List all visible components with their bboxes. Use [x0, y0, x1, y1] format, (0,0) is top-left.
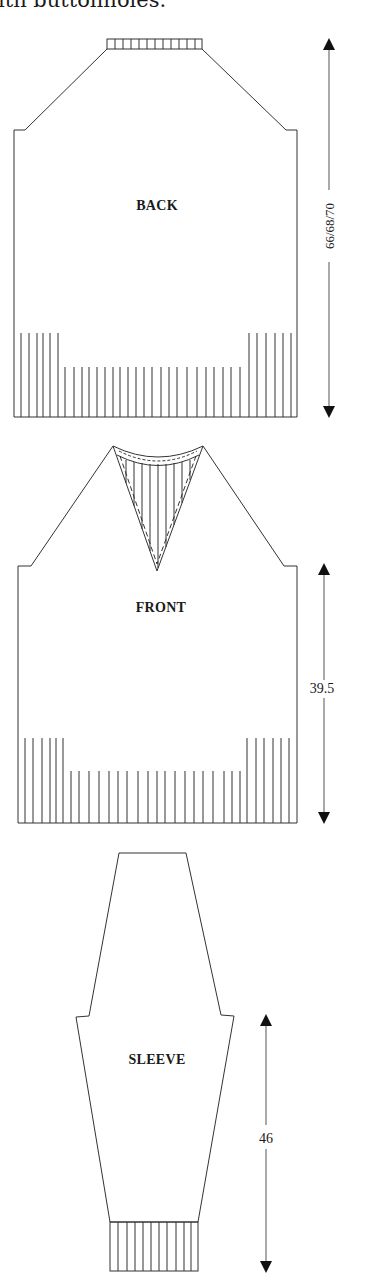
arrow-down-icon: [260, 1261, 272, 1273]
back-piece: BACK 66/68/70: [14, 38, 337, 418]
sleeve-length-label: 46: [259, 1131, 273, 1146]
back-label: BACK: [136, 198, 178, 213]
front-neckband: [113, 446, 203, 457]
arrow-down-icon: [323, 406, 335, 418]
front-label: FRONT: [136, 600, 187, 615]
sleeve-piece: SLEEVE 46: [76, 853, 273, 1273]
front-placket-ribs: [126, 460, 190, 568]
front-length-label: 39.5: [310, 681, 335, 696]
back-outline: [14, 49, 297, 417]
pattern-schematic: BACK 66/68/70: [0, 0, 367, 1283]
front-piece: FRONT 39.5: [18, 446, 340, 824]
sleeve-length-arrow: 46: [259, 1014, 273, 1273]
front-ribbing: [25, 738, 289, 823]
arrow-down-icon: [318, 812, 330, 824]
arrow-up-icon: [318, 563, 330, 575]
sleeve-cuff-ribs: [118, 1222, 191, 1271]
arrow-up-icon: [260, 1014, 272, 1026]
arrow-up-icon: [323, 38, 335, 50]
front-length-arrow: 39.5: [304, 563, 340, 824]
back-neckband-ribs: [115, 39, 195, 49]
sleeve-cuff: [110, 1222, 198, 1271]
back-ribbing: [21, 333, 291, 417]
sleeve-outline: [76, 853, 234, 1222]
back-length-arrow: 66/68/70: [322, 38, 337, 418]
back-length-label: 66/68/70: [322, 203, 337, 249]
sleeve-label: SLEEVE: [128, 1052, 185, 1067]
